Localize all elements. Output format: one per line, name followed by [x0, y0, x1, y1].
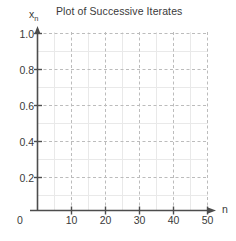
chart-title: Plot of Successive Iterates: [56, 5, 182, 17]
y-tick-label: 0.2: [19, 172, 34, 184]
y-tick-label: 0.8: [19, 64, 34, 76]
y-tick-label: 0.6: [19, 100, 34, 112]
x-tick-label: 50: [202, 214, 214, 226]
x-axis-arrow: [208, 207, 216, 213]
grid-minor-vertical: [55, 32, 191, 210]
x-tick-label: 40: [168, 214, 180, 226]
chart-canvas: [0, 0, 236, 241]
x-tick-label: 0: [17, 214, 23, 226]
y-axis: [34, 26, 40, 210]
x-tick-label: 10: [66, 214, 78, 226]
x-tick-label: 30: [134, 214, 146, 226]
y-axis-label: xn: [29, 8, 38, 20]
y-tick-label: 1.0: [19, 28, 34, 40]
x-axis-label: n: [222, 203, 228, 215]
y-tick-label: 0.4: [19, 136, 34, 148]
x-tick-label: 20: [100, 214, 112, 226]
grid-major-vertical: [72, 32, 208, 210]
y-axis-label-subscript: n: [34, 14, 38, 23]
chart-figure: Plot of Successive Iterates xn n 1.0 0.8…: [0, 0, 236, 241]
